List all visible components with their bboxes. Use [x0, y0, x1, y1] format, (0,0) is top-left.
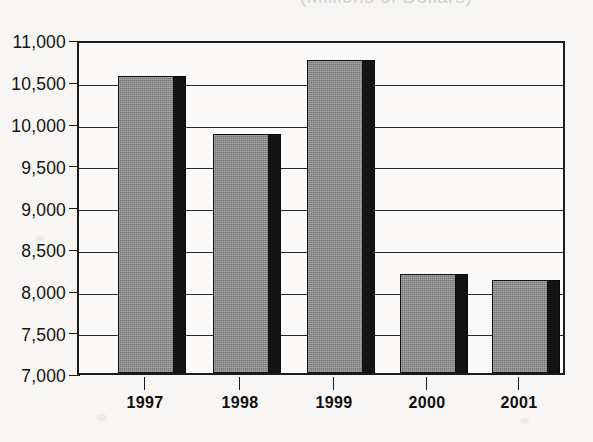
bar-1998[interactable]: [213, 134, 269, 373]
bar-1999[interactable]: [307, 60, 363, 373]
bar-group-1999[interactable]: [307, 43, 375, 373]
bar-group-1998[interactable]: [213, 43, 281, 373]
bar-chart: 11,000 10,500 10,000 9,500 9,000 8,500 8…: [0, 0, 593, 442]
x-axis-label-2000: 2000: [396, 394, 458, 412]
x-axis-tick: [518, 377, 519, 390]
y-axis-label-9000: 9,000: [8, 200, 66, 221]
x-axis-label-1998: 1998: [209, 394, 271, 412]
bar-1997[interactable]: [118, 76, 174, 373]
y-axis-label-10000: 10,000: [8, 116, 66, 137]
x-axis-tick: [426, 377, 427, 390]
bar-group-1997[interactable]: [118, 43, 186, 373]
bar-group-2000[interactable]: [400, 43, 468, 373]
y-axis-label-9500: 9,500: [8, 158, 66, 179]
bar-shadow-2001: [546, 280, 560, 373]
x-axis-label-1997: 1997: [114, 394, 176, 412]
bar-shadow-2000: [454, 274, 468, 373]
y-axis-label-8500: 8,500: [8, 241, 66, 262]
y-axis-tick: [69, 375, 80, 376]
x-axis-label-2001: 2001: [488, 394, 550, 412]
y-axis-label-8000: 8,000: [8, 283, 66, 304]
bar-shadow-1997: [172, 76, 186, 373]
bar-group-2001[interactable]: [492, 43, 560, 373]
paper-speck: [520, 418, 529, 424]
y-axis-label-7500: 7,500: [8, 325, 66, 346]
x-axis-tick: [239, 377, 240, 390]
x-axis-label-1999: 1999: [303, 394, 365, 412]
bar-2001[interactable]: [492, 280, 548, 373]
bar-shadow-1998: [267, 134, 281, 373]
y-axis-label-11000: 11,000: [8, 32, 66, 53]
plot-area: [77, 41, 565, 375]
paper-speck: [96, 414, 107, 421]
x-axis-tick: [333, 377, 334, 390]
bar-2000[interactable]: [400, 274, 456, 373]
y-axis-label-7000: 7,000: [8, 366, 66, 387]
bar-shadow-1999: [361, 60, 375, 373]
x-axis-tick: [144, 377, 145, 390]
y-axis-label-10500: 10,500: [8, 74, 66, 95]
